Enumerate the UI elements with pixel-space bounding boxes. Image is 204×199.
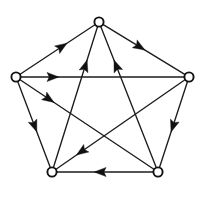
graph-edge-bottom_right-to-top [100,26,156,169]
graph-node-bottom_left [47,167,56,176]
graph-arrowheads-layer [28,40,179,177]
arrowhead-left-to-bottom_right [42,92,55,102]
directed-graph-canvas [0,0,204,199]
arrowhead-right-to-bottom_left [76,144,88,155]
figure-root [0,0,204,199]
arrowhead-top-to-right [132,40,145,50]
graph-node-bottom_right [153,167,162,176]
graph-edge-right-to-bottom_left [55,79,185,169]
arrowhead-left-to-top [55,43,68,53]
graph-node-right [184,72,193,81]
graph-edge-left-to-bottom_right [19,79,154,170]
graph-node-left [11,72,20,81]
graph-nodes-layer [11,17,193,176]
graph-edges-layer [17,24,187,172]
graph-node-top [94,17,103,26]
